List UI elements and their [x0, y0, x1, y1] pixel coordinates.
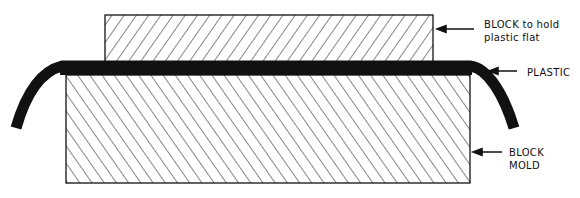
upper-block-label-line1: BLOCK to hold — [484, 18, 559, 31]
arrow-plastic — [489, 68, 517, 75]
upper-block-label-line2: plastic flat — [484, 31, 559, 44]
arrow-block-mold — [473, 149, 502, 156]
block-mold — [66, 75, 470, 183]
block-mold-label-line1: BLOCK — [509, 146, 544, 159]
block-mold-label-line2: MOLD — [509, 159, 544, 172]
plastic-label: PLASTIC — [527, 66, 570, 79]
block-mold-label: BLOCK MOLD — [509, 146, 544, 172]
plastic-flat-band — [60, 63, 472, 75]
upper-block — [105, 15, 433, 65]
upper-block-label: BLOCK to hold plastic flat — [484, 18, 559, 44]
arrow-upper-block — [437, 26, 474, 33]
